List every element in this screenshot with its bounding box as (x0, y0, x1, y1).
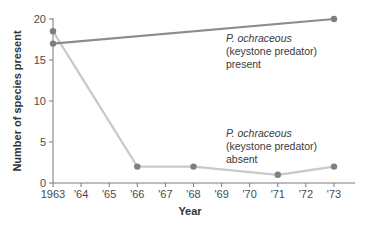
x-tick-label: '71 (271, 188, 285, 200)
x-axis-title: Year (178, 205, 202, 217)
x-tick-label: '73 (327, 188, 341, 200)
x-tick-label: '64 (74, 188, 88, 200)
annotation-present-species: P. ochraceous (226, 32, 293, 44)
annotation-absent-species: P. ochraceous (226, 127, 293, 139)
annotation-absent-role: (keystone predator) (226, 140, 317, 152)
y-axis-title: Number of species present (11, 30, 23, 172)
y-tick-label: 5 (40, 136, 46, 148)
annotation-absent: P. ochraceous (keystone predator) absent (226, 127, 317, 165)
y-tick-label: 15 (34, 54, 46, 66)
x-tick-label: '66 (130, 188, 144, 200)
x-tick-label: '68 (186, 188, 200, 200)
y-tick-label: 10 (34, 95, 46, 107)
marker-absent (331, 163, 337, 169)
marker-absent (190, 163, 196, 169)
x-tick-label: '72 (299, 188, 313, 200)
annotation-present-role: (keystone predator) (226, 45, 317, 57)
y-tick-label: 20 (34, 13, 46, 25)
line-predator-present (53, 19, 334, 44)
marker-present (331, 16, 337, 22)
annotation-absent-status: absent (226, 153, 258, 165)
x-tick-label: '70 (243, 188, 257, 200)
x-tick-label: '67 (158, 188, 172, 200)
x-tick-label: '65 (102, 188, 116, 200)
x-tick-label: '69 (214, 188, 228, 200)
marker-absent (134, 163, 140, 169)
annotation-present-status: present (226, 58, 261, 70)
annotation-present: P. ochraceous (keystone predator) presen… (226, 32, 317, 70)
species-chart: 051015201963'64'65'66'67'68'69'70'71'72'… (0, 0, 368, 226)
marker-absent (50, 28, 56, 34)
marker-present (50, 40, 56, 46)
x-tick-label: 1963 (41, 188, 65, 200)
marker-absent (275, 172, 281, 178)
series-group (50, 16, 337, 178)
